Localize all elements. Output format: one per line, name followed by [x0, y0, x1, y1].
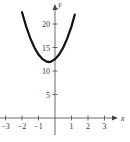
tick-labels: −3−2−11235101520	[1, 20, 106, 131]
x-tick-label: 3	[103, 122, 107, 131]
y-tick-label: 20	[42, 20, 50, 29]
y-tick-label: 15	[42, 44, 50, 53]
x-axis-label: x	[120, 114, 125, 123]
axes	[0, 4, 118, 135]
y-tick-label: 5	[46, 91, 50, 100]
y-axis-label: y	[57, 0, 62, 9]
chart: −3−2−11235101520 x y	[0, 0, 130, 142]
x-tick-label: 1	[70, 122, 74, 131]
x-tick-label: 2	[86, 122, 90, 131]
x-tick-label: −2	[18, 122, 27, 131]
x-tick-label: −1	[34, 122, 43, 131]
x-axis-arrow-icon	[112, 116, 118, 121]
x-tick-label: −3	[1, 122, 10, 131]
y-axis-arrow-icon	[53, 4, 58, 10]
y-tick-label: 10	[42, 67, 50, 76]
